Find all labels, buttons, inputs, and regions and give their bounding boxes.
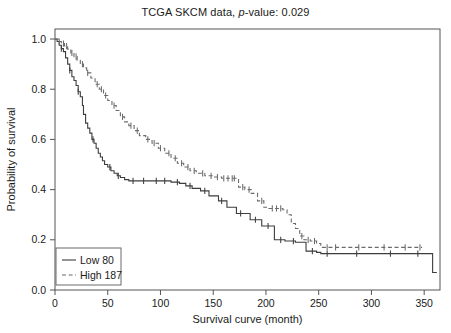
y-tick-label: 1.0 bbox=[31, 33, 46, 45]
survival-curves bbox=[55, 38, 437, 272]
y-tick-label: 0.8 bbox=[31, 83, 46, 95]
legend-label-high: High 187 bbox=[80, 269, 122, 281]
kaplan-meier-survival-plot: TCGA SKCM data, p-value: 0.029 050100150… bbox=[0, 0, 451, 333]
x-axis-title: Survival curve (month) bbox=[192, 313, 302, 325]
y-tick-label: 0.2 bbox=[31, 233, 46, 245]
x-tick-label: 100 bbox=[152, 297, 170, 309]
y-axis-title: Probability of survival bbox=[5, 108, 17, 212]
x-tick-label: 200 bbox=[257, 297, 275, 309]
legend-label-low: Low 80 bbox=[80, 254, 114, 266]
survival-curve-low bbox=[55, 39, 437, 272]
y-tick-label: 0.4 bbox=[31, 183, 46, 195]
x-tick-label: 150 bbox=[204, 297, 222, 309]
y-tick-label: 0.0 bbox=[31, 284, 46, 296]
survival-curve-high bbox=[55, 38, 422, 250]
x-tick-label: 50 bbox=[102, 297, 114, 309]
legend-box: Low 80High 187 bbox=[56, 248, 122, 285]
plot-area: 0501001502002503003500.00.20.40.60.81.0 … bbox=[0, 0, 451, 333]
x-tick-label: 250 bbox=[310, 297, 328, 309]
x-tick-label: 300 bbox=[363, 297, 381, 309]
x-tick-label: 0 bbox=[52, 297, 58, 309]
curve-line-low bbox=[55, 39, 437, 272]
y-tick-label: 0.6 bbox=[31, 133, 46, 145]
curve-line-high bbox=[55, 39, 422, 247]
x-tick-label: 350 bbox=[415, 297, 433, 309]
